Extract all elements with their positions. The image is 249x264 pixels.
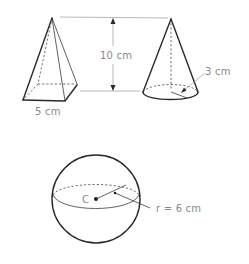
pyramid-base-front xyxy=(23,85,77,101)
arrowhead-down-icon xyxy=(111,85,116,91)
cone-left-side xyxy=(143,19,171,92)
cone-radius-line xyxy=(171,92,187,98)
cone: 3 cm xyxy=(143,19,231,100)
top-guide-line xyxy=(60,17,168,18)
cone-base-front xyxy=(143,92,198,100)
square-pyramid: 5 cm xyxy=(23,18,77,117)
height-label: 10 cm xyxy=(100,50,132,61)
pyramid-front-edge xyxy=(52,18,65,101)
cone-right-side xyxy=(171,19,198,92)
leader-arrow-icon xyxy=(181,88,187,94)
pyramid-left-edge xyxy=(23,18,52,100)
geometry-figure: 5 cm 10 cm 3 cm C r = 6 cm xyxy=(0,0,249,264)
sphere-radius-line xyxy=(96,185,126,199)
sphere-equator-back xyxy=(53,185,139,196)
sphere-center-label: C xyxy=(82,194,89,205)
cone-radius-label: 3 cm xyxy=(205,66,231,77)
height-dimension: 10 cm xyxy=(60,17,168,91)
pyramid-right-edge xyxy=(52,18,77,84)
arrowhead-up-icon xyxy=(111,18,116,24)
cone-radius-leader xyxy=(182,73,205,92)
sphere-radius-label: r = 6 cm xyxy=(156,203,201,214)
pyramid-base-label: 5 cm xyxy=(35,106,61,117)
sphere: C r = 6 cm xyxy=(52,155,201,243)
